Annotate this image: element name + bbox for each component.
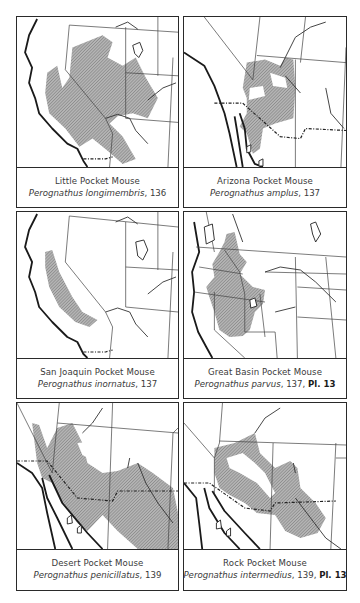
page-reference: , 137, xyxy=(281,379,308,389)
scientific-name: Perognathus penicillatus xyxy=(34,570,140,580)
scientific-name-line: Perognathus longimembris, 136 xyxy=(29,187,167,199)
scientific-name: Perognathus parvus xyxy=(195,379,281,389)
scientific-name-line: Perognathus intermedius, 139, Pl. 13 xyxy=(183,569,346,581)
scientific-name-line: Perognathus parvus, 137, Pl. 13 xyxy=(195,378,336,390)
range-map-rock-pocket-mouse xyxy=(184,403,346,550)
common-name: Arizona Pocket Mouse xyxy=(217,175,313,187)
caption: San Joaquin Pocket Mouse Perognathus ino… xyxy=(17,357,178,398)
page-reference: , 137 xyxy=(298,188,320,198)
caption: Little Pocket Mouse Perognathus longimem… xyxy=(17,166,178,207)
common-name: Rock Pocket Mouse xyxy=(223,557,307,569)
caption: Rock Pocket Mouse Perognathus intermediu… xyxy=(184,548,346,590)
range-map-panel-san-joaquin-pocket-mouse: San Joaquin Pocket Mouse Perognathus ino… xyxy=(16,211,179,399)
page-reference: , 139 xyxy=(140,570,162,580)
plate-reference: Pl. 13 xyxy=(319,570,346,580)
scientific-name-line: Perognathus amplus, 137 xyxy=(210,187,320,199)
common-name: Desert Pocket Mouse xyxy=(51,557,143,569)
scientific-name-line: Perognathus penicillatus, 139 xyxy=(34,569,162,581)
range-map-san-joaquin-pocket-mouse xyxy=(17,212,178,359)
common-name: Little Pocket Mouse xyxy=(55,175,140,187)
scientific-name: Perognathus inornatus xyxy=(38,379,136,389)
scientific-name: Perognathus longimembris xyxy=(29,188,145,198)
caption: Great Basin Pocket Mouse Perognathus par… xyxy=(184,357,346,398)
page-reference: , 137 xyxy=(135,379,157,389)
range-map-panel-rock-pocket-mouse: Rock Pocket Mouse Perognathus intermediu… xyxy=(183,402,347,591)
range-map-desert-pocket-mouse xyxy=(17,403,178,550)
page-reference: , 136 xyxy=(144,188,166,198)
page-reference: , 139, xyxy=(292,570,319,580)
common-name: San Joaquin Pocket Mouse xyxy=(40,366,155,378)
common-name: Great Basin Pocket Mouse xyxy=(208,366,322,378)
scientific-name: Perognathus amplus xyxy=(210,188,298,198)
plate-reference: Pl. 13 xyxy=(308,379,335,389)
range-map-little-pocket-mouse xyxy=(17,17,178,168)
range-map-panel-great-basin-pocket-mouse: Great Basin Pocket Mouse Perognathus par… xyxy=(183,211,347,399)
caption: Arizona Pocket Mouse Perognathus amplus,… xyxy=(184,166,346,207)
scientific-name: Perognathus intermedius xyxy=(183,570,291,580)
range-map-panel-arizona-pocket-mouse: Arizona Pocket Mouse Perognathus amplus,… xyxy=(183,16,347,208)
scientific-name-line: Perognathus inornatus, 137 xyxy=(38,378,157,390)
range-map-arizona-pocket-mouse xyxy=(184,17,346,168)
range-map-panel-little-pocket-mouse: Little Pocket Mouse Perognathus longimem… xyxy=(16,16,179,208)
caption: Desert Pocket Mouse Perognathus penicill… xyxy=(17,548,178,590)
range-map-panel-desert-pocket-mouse: Desert Pocket Mouse Perognathus penicill… xyxy=(16,402,179,591)
range-map-great-basin-pocket-mouse xyxy=(184,212,346,359)
